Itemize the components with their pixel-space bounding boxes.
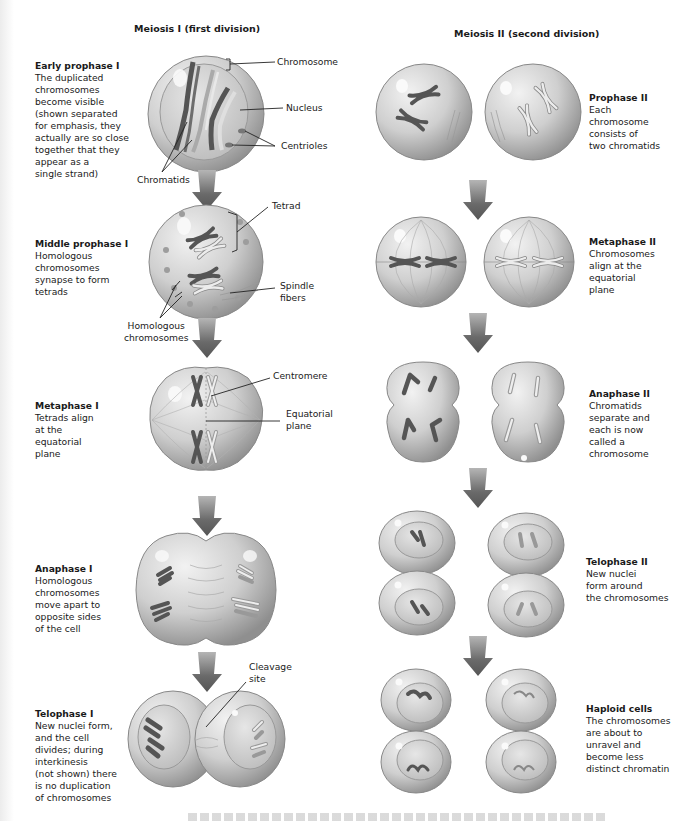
meiosis-1-title: Meiosis I (first division) (134, 23, 260, 34)
stage-title: Metaphase I (35, 400, 155, 412)
label-homologous-chromosomes: Homologous chromosomes (124, 320, 188, 344)
stage-haploid-cells: Haploid cells The chromosomes are about … (586, 703, 697, 775)
stage-title: Telophase I (35, 708, 155, 720)
stage-body: Chromosomes align at the equatorial plan… (589, 248, 697, 296)
stage-telophase-2: Telophase II New nuclei form around the … (586, 556, 697, 604)
label-centrioles: Centrioles (281, 140, 327, 152)
label-chromosome: Chromosome (277, 56, 338, 68)
stage-prophase-2: Prophase II Each chromosome consists of … (589, 92, 697, 152)
cells-haploid (381, 669, 556, 793)
stage-body: The duplicated chromosomes become visibl… (35, 72, 155, 180)
stage-title: Middle prophase I (35, 238, 155, 250)
cells-telophase-2 (379, 511, 564, 637)
label-spindle-fibers: Spindle fibers (280, 280, 314, 304)
figure-caption-cut-off (188, 813, 608, 821)
stage-title: Telophase II (586, 556, 697, 568)
stage-early-prophase-1: Early prophase I The duplicated chromoso… (35, 60, 155, 180)
stage-body: New nuclei form, and the cell divides; d… (35, 720, 155, 804)
label-chromatids: Chromatids (137, 174, 190, 186)
stage-middle-prophase-1: Middle prophase I Homologous chromosomes… (35, 238, 155, 298)
stage-title: Anaphase II (589, 388, 697, 400)
label-cleavage-site: Cleavage site (249, 661, 292, 685)
meiosis-2-title: Meiosis II (second division) (454, 28, 599, 39)
stage-body: Homologous chromosomes move apart to opp… (35, 575, 155, 635)
stage-anaphase-2: Anaphase II Chromatids separate and each… (589, 388, 697, 460)
cell-anaphase-1 (136, 533, 276, 645)
stage-telophase-1: Telophase I New nuclei form, and the cel… (35, 708, 155, 804)
stage-body: New nuclei form around the chromosomes (586, 568, 697, 604)
cells-anaphase-2 (387, 362, 564, 462)
stage-body: Chromatids separate and each is now call… (589, 400, 697, 460)
stage-body: Homologous chromosomes synapse to form t… (35, 250, 155, 298)
cell-early-prophase-1 (148, 56, 264, 172)
stage-title: Metaphase II (589, 236, 697, 248)
stage-body: Each chromosome consists of two chromati… (589, 104, 697, 152)
stage-anaphase-1: Anaphase I Homologous chromosomes move a… (35, 563, 155, 635)
stage-metaphase-1: Metaphase I Tetrads align at the equator… (35, 400, 155, 460)
stage-body: The chromosomes are about to unravel and… (586, 715, 697, 775)
label-nucleus: Nucleus (286, 102, 323, 114)
stage-title: Prophase II (589, 92, 697, 104)
label-tetrad: Tetrad (272, 200, 301, 212)
stage-metaphase-2: Metaphase II Chromosomes align at the eq… (589, 236, 697, 296)
stage-title: Anaphase I (35, 563, 155, 575)
label-centromere: Centromere (273, 370, 328, 382)
cell-metaphase-1 (150, 367, 263, 470)
cell-middle-prophase-1 (149, 205, 263, 319)
stage-title: Haploid cells (586, 703, 697, 715)
label-equatorial-plane: Equatorial plane (286, 408, 333, 432)
stage-body: Tetrads align at the equatorial plane (35, 412, 155, 460)
stage-title: Early prophase I (35, 60, 155, 72)
cells-prophase-2 (376, 64, 581, 160)
cells-metaphase-2 (376, 217, 574, 307)
